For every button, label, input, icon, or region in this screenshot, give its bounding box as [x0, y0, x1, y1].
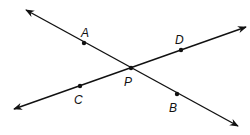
- point-p: [129, 66, 133, 70]
- label-c: C: [74, 93, 83, 107]
- diagram-canvas: ADPCB: [0, 0, 250, 135]
- point-b: [175, 92, 179, 96]
- point-c: [78, 84, 82, 88]
- point-a: [82, 41, 86, 45]
- label-p: P: [124, 75, 132, 89]
- label-b: B: [169, 101, 177, 115]
- point-d: [179, 48, 183, 52]
- label-a: A: [80, 26, 89, 40]
- label-d: D: [175, 33, 184, 47]
